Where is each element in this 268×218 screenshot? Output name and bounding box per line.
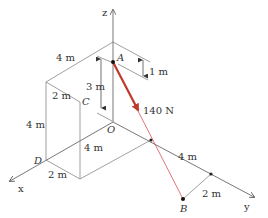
dim-left-height: 4 m <box>26 119 46 130</box>
dim-a-height: 3 m <box>86 81 106 92</box>
statics-diagram: z x y A B C D <box>0 0 268 218</box>
force-label: 140 N <box>143 105 174 116</box>
force-arrow <box>113 62 138 110</box>
dim-a-offset: 1 m <box>149 66 169 77</box>
dim-base-length: 4 m <box>84 142 104 153</box>
point-a-label: A <box>116 52 124 63</box>
dim-y-length: 4 m <box>178 151 198 162</box>
z-axis-label: z <box>102 7 107 18</box>
point-a-dot <box>111 60 115 64</box>
dim-top-depth: 2 m <box>52 90 72 101</box>
point-b-dot <box>181 197 185 201</box>
box-frame <box>46 42 211 199</box>
x-axis: x <box>10 122 113 194</box>
dim-bottom-depth: 2 m <box>48 169 68 180</box>
point-b-label: B <box>179 203 187 214</box>
y-axis-tick-dot <box>209 172 212 175</box>
x-axis-label: x <box>18 183 24 194</box>
dim-top-edge: 4 m <box>56 52 76 63</box>
z-axis: z <box>102 7 113 122</box>
dim-b-offset: 2 m <box>202 188 222 199</box>
point-c-label: C <box>82 96 90 107</box>
y-axis-label: y <box>243 201 250 212</box>
point-d-label: D <box>33 155 42 166</box>
point-o-label: O <box>107 124 115 135</box>
